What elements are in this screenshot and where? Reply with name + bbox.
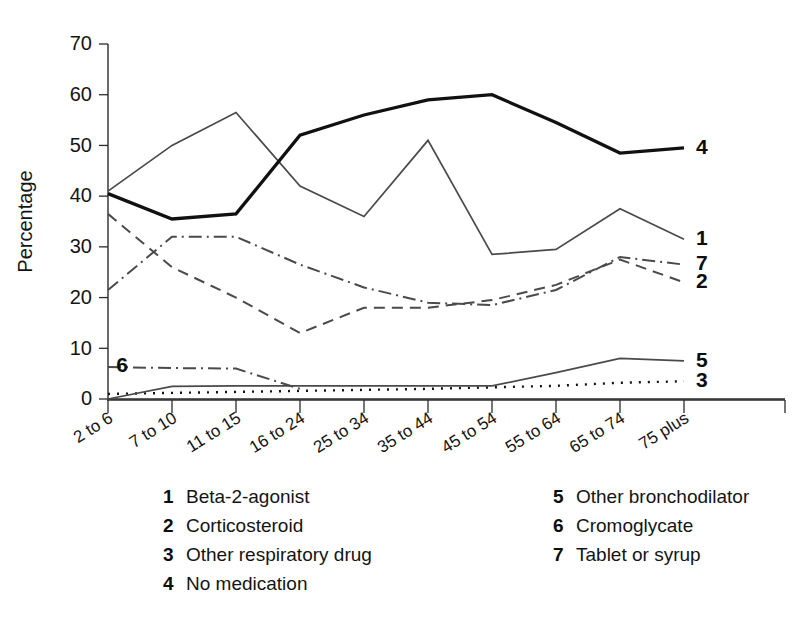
chart-legend: 1Beta-2-agonist2Corticosteroid3Other res… xyxy=(0,486,808,606)
legend-item-2: 2Corticosteroid xyxy=(163,515,372,544)
series-line-5 xyxy=(108,358,684,399)
legend-item-6: 6Cromoglycate xyxy=(553,515,749,544)
legend-label: Tablet or syrup xyxy=(570,544,701,566)
legend-key: 5 xyxy=(553,486,570,508)
x-tick-label: 35 to 44 xyxy=(374,408,436,457)
x-tick-label: 11 to 15 xyxy=(183,408,244,456)
legend-label: No medication xyxy=(180,573,307,595)
y-tick-label: 0 xyxy=(81,387,92,409)
x-tick-label: 65 to 74 xyxy=(566,408,628,457)
series-label-6: 6 xyxy=(116,353,128,376)
series-end-labels: 1234567 xyxy=(116,135,708,391)
y-tick-label: 50 xyxy=(70,134,92,156)
y-tick-label: 60 xyxy=(70,83,92,105)
legend-key: 7 xyxy=(553,544,570,566)
legend-item-3: 3Other respiratory drug xyxy=(163,544,372,573)
y-tick-label: 10 xyxy=(70,337,92,359)
series-label-5: 5 xyxy=(696,348,708,371)
series-label-4: 4 xyxy=(696,135,708,158)
legend-key: 2 xyxy=(163,515,180,537)
x-tick-label: 25 to 34 xyxy=(310,408,372,457)
series-label-3: 3 xyxy=(696,368,708,391)
legend-key: 1 xyxy=(163,486,180,508)
series-label-7: 7 xyxy=(696,251,708,274)
x-tick-label: 55 to 64 xyxy=(502,408,564,457)
legend-label: Beta-2-agonist xyxy=(180,486,310,508)
series-label-1: 1 xyxy=(696,226,708,249)
y-axis-title: Percentage xyxy=(14,170,36,272)
x-tick-label: 2 to 6 xyxy=(70,408,116,447)
legend-column-right: 5Other bronchodilator6Cromoglycate7Table… xyxy=(553,486,749,573)
series-line-3 xyxy=(108,381,684,394)
y-tick-label: 40 xyxy=(70,184,92,206)
legend-item-7: 7Tablet or syrup xyxy=(553,544,749,573)
chart-axes: 0102030405060702 to 67 to 1011 to 1516 t… xyxy=(14,32,785,457)
y-tick-label: 70 xyxy=(70,32,92,54)
x-tick-label: 16 to 24 xyxy=(246,408,308,457)
series-line-2 xyxy=(108,214,684,333)
legend-label: Other respiratory drug xyxy=(180,544,372,566)
x-tick-label: 7 to 10 xyxy=(126,408,180,452)
chart-figure: 0102030405060702 to 67 to 1011 to 1516 t… xyxy=(0,0,808,629)
y-tick-label: 20 xyxy=(70,286,92,308)
x-tick-label: 75 plus xyxy=(636,408,693,453)
legend-item-4: 4No medication xyxy=(163,573,372,602)
series-line-7 xyxy=(108,237,684,305)
legend-key: 4 xyxy=(163,573,180,595)
legend-key: 3 xyxy=(163,544,180,566)
y-tick-label: 30 xyxy=(70,235,92,257)
legend-label: Other bronchodilator xyxy=(570,486,749,508)
legend-item-1: 1Beta-2-agonist xyxy=(163,486,372,515)
legend-item-5: 5Other bronchodilator xyxy=(553,486,749,515)
series-line-4 xyxy=(108,95,684,219)
legend-label: Corticosteroid xyxy=(180,515,303,537)
legend-column-left: 1Beta-2-agonist2Corticosteroid3Other res… xyxy=(163,486,372,602)
legend-key: 6 xyxy=(553,515,570,537)
series-line-1 xyxy=(108,112,684,254)
x-tick-label: 45 to 54 xyxy=(438,408,500,457)
legend-label: Cromoglycate xyxy=(570,515,693,537)
chart-series xyxy=(108,95,684,399)
